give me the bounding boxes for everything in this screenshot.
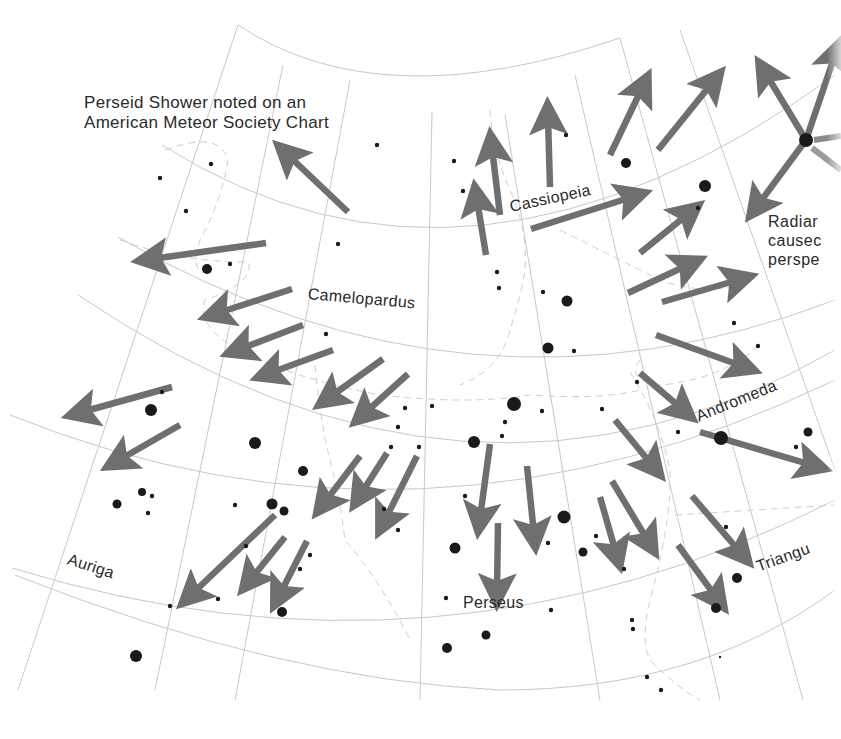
star <box>249 437 261 449</box>
star <box>216 597 220 601</box>
meteor-arrow <box>192 515 275 594</box>
title-line-2: American Meteor Society Chart <box>84 113 329 133</box>
star <box>463 494 467 498</box>
meteor-arrow <box>361 453 387 494</box>
meteor-arrow <box>330 359 383 397</box>
star <box>382 507 386 511</box>
star <box>145 404 157 416</box>
star <box>540 409 544 413</box>
star <box>546 541 550 545</box>
meteor-arrow <box>658 83 712 150</box>
meteor-arrow <box>610 88 642 155</box>
star <box>280 507 289 516</box>
star <box>549 608 553 612</box>
meteor-arrow <box>240 325 303 349</box>
meteor-arrow <box>678 545 716 597</box>
star <box>621 158 631 168</box>
star <box>452 159 456 163</box>
star <box>403 406 407 410</box>
star <box>756 344 760 348</box>
star <box>794 445 798 449</box>
star <box>562 296 573 307</box>
star <box>130 650 142 662</box>
star <box>442 643 452 653</box>
star <box>209 162 213 166</box>
meteor-arrow <box>640 373 682 409</box>
star <box>146 511 150 515</box>
meteor-arrow <box>692 496 740 552</box>
title-line-1: Perseid Shower noted on an <box>84 93 329 113</box>
star <box>594 534 598 538</box>
star <box>497 286 501 290</box>
star <box>158 176 162 180</box>
meteor-arrow <box>480 444 490 518</box>
star <box>732 573 742 583</box>
star <box>396 425 400 429</box>
star <box>324 332 328 336</box>
meteor-arrow <box>477 200 486 255</box>
star <box>202 264 212 274</box>
star <box>482 631 491 640</box>
star <box>543 343 554 354</box>
meteor-arrow <box>82 387 172 412</box>
star <box>635 380 639 384</box>
star <box>233 503 237 507</box>
star <box>336 242 340 246</box>
star <box>430 404 434 408</box>
star <box>396 528 400 532</box>
star <box>468 436 480 448</box>
star <box>579 548 588 557</box>
star <box>244 544 248 548</box>
star <box>461 189 465 193</box>
chart-title: Perseid Shower noted on an American Mete… <box>84 93 329 133</box>
meteor-arrow <box>497 523 498 590</box>
star <box>622 567 626 571</box>
star <box>375 143 379 147</box>
star <box>298 466 308 476</box>
meteor-arrow <box>270 350 333 373</box>
meteor-arrow <box>548 118 550 187</box>
star <box>659 688 663 692</box>
star <box>711 603 721 613</box>
meteor-arrow <box>288 155 348 212</box>
meteor-arrow <box>119 425 180 460</box>
star <box>113 500 122 509</box>
star <box>507 397 521 411</box>
star <box>444 596 448 600</box>
meteor-arrow <box>385 456 417 520</box>
meteor-arrow <box>766 74 806 140</box>
star <box>267 499 278 510</box>
star <box>184 209 188 213</box>
meteor-arrow <box>758 140 806 205</box>
star <box>168 604 172 608</box>
label-perseus: Perseus <box>463 594 524 612</box>
star <box>228 262 232 266</box>
star <box>308 553 312 557</box>
star <box>572 349 576 353</box>
star <box>645 675 649 679</box>
star <box>719 656 721 658</box>
star <box>150 494 154 498</box>
star <box>541 290 545 294</box>
star <box>558 511 571 524</box>
star <box>630 618 634 622</box>
meteor-arrow <box>600 497 616 553</box>
meteor-arrow <box>662 280 738 302</box>
star <box>631 627 635 631</box>
radiant-point <box>799 133 813 147</box>
star <box>277 607 287 617</box>
star <box>724 525 728 529</box>
meteor-trail-arrows <box>82 55 835 597</box>
star <box>160 390 164 394</box>
star <box>298 567 302 571</box>
star <box>564 133 568 137</box>
star <box>495 270 499 274</box>
star <box>732 321 736 325</box>
meteor-arrow <box>527 466 534 534</box>
star <box>699 180 711 192</box>
star <box>450 543 461 554</box>
meteor-arrow <box>656 335 742 366</box>
meteor-arrow <box>640 214 688 253</box>
star <box>417 445 421 449</box>
meteor-arrow <box>628 265 688 293</box>
